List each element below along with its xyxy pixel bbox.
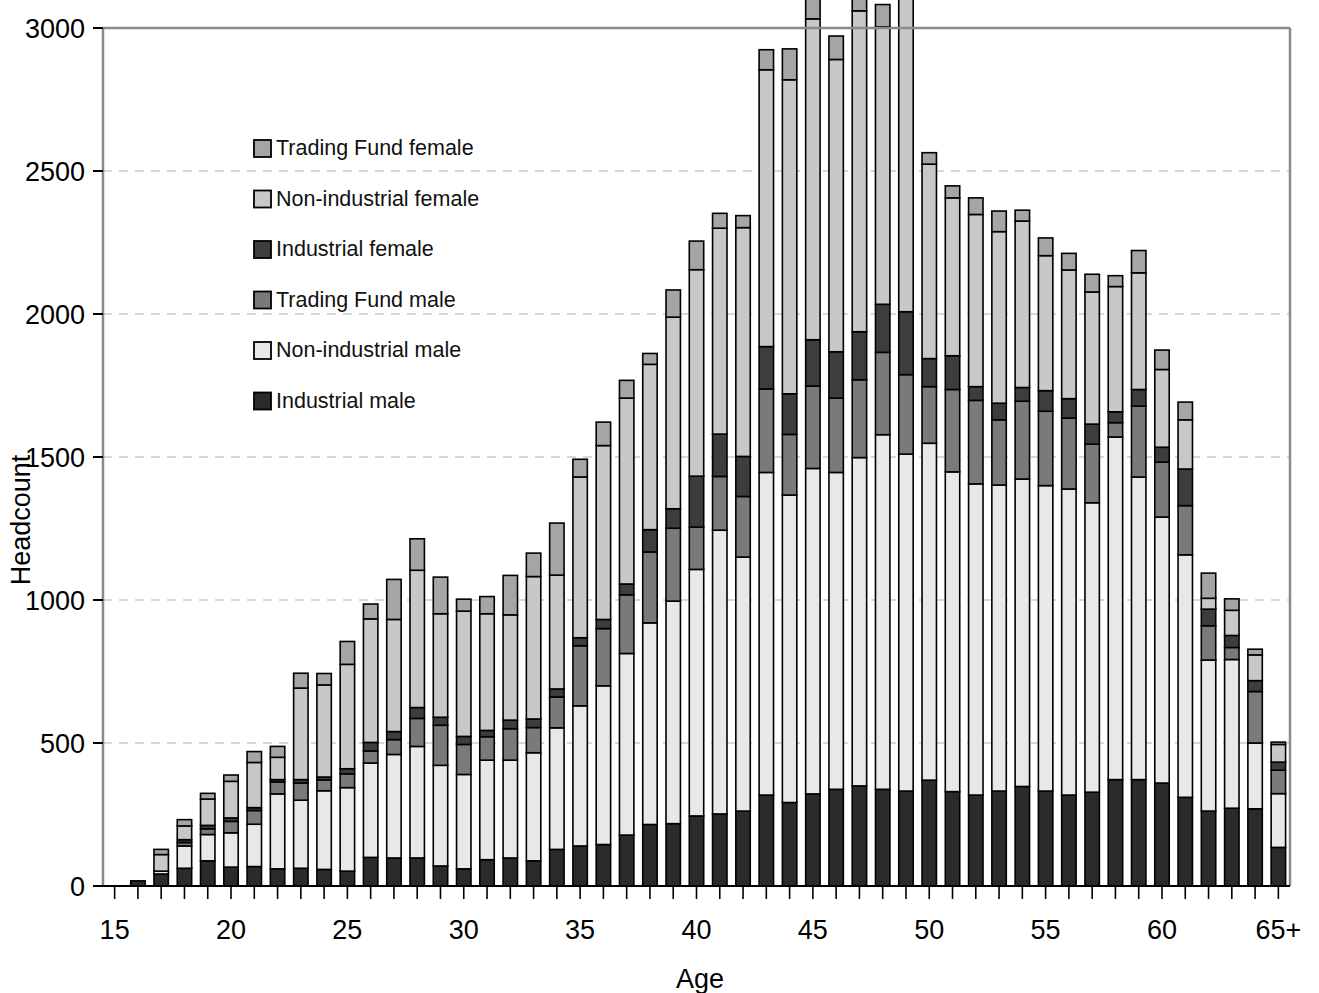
bar-segment [1155,462,1169,517]
bar-segment [643,530,657,552]
bar-segment [922,780,936,886]
bar-segment [713,213,727,228]
x-tick-label: 55 [1031,915,1061,945]
legend-label: Trading Fund male [276,288,456,312]
bar-segment [340,871,354,886]
bar-segment [1038,411,1052,485]
bar-stack [596,422,610,886]
bar-segment [526,719,540,728]
bar-segment [713,476,727,530]
bar-segment [643,353,657,364]
y-tick-label: 3000 [25,14,85,44]
bar-segment [1225,647,1239,659]
bar-stack [1248,649,1262,886]
bar-segment [317,869,331,886]
bar-segment [1178,506,1192,555]
bar-segment [550,523,564,575]
bar-stack [945,186,959,886]
bar-segment [363,604,377,619]
bar-segment [666,824,680,886]
x-tick-label: 25 [332,915,362,945]
bar-segment [410,570,424,707]
bar-segment [759,70,773,347]
bar-segment [294,688,308,780]
bar-stack [643,353,657,886]
bar-stack [1038,238,1052,886]
bar-segment [713,434,727,476]
bar-segment [1015,401,1029,479]
bar-segment [945,356,959,390]
bar-segment [1085,292,1099,424]
bar-segment [1062,489,1076,795]
bar-segment [992,403,1006,420]
bar-segment [1085,274,1099,292]
bar-segment [433,717,447,725]
bar-segment [945,390,959,472]
bar-segment [294,673,308,688]
bar-segment [969,400,983,484]
bar-segment [317,791,331,870]
bar-segment [1062,253,1076,270]
bar-segment [806,468,820,793]
bar-segment [201,861,215,886]
bar-segment [526,861,540,886]
bar-stack [875,5,889,886]
bar-segment [666,509,680,528]
bar-segment [1038,791,1052,886]
bar-segment [480,730,494,736]
bar-segment [363,742,377,751]
bar-segment [1132,780,1146,886]
bar-segment [387,754,401,858]
bar-segment [1015,479,1029,786]
bar-stack [666,290,680,886]
bar-segment [852,786,866,886]
bar-segment [177,846,191,868]
bar-stack [969,198,983,886]
bar-segment [899,312,913,375]
bar-segment [410,858,424,886]
bar-segment [596,686,610,845]
bar-segment [969,484,983,795]
bar-segment [969,214,983,386]
bar-segment [1155,517,1169,783]
bar-segment [1108,780,1122,886]
bar-segment [247,824,261,866]
x-tick-label: 35 [565,915,595,945]
legend-label: Industrial female [276,237,434,261]
bar-segment [1108,423,1122,437]
legend-label: Industrial male [276,389,416,413]
x-tick-label: 20 [216,915,246,945]
bar-segment [1015,221,1029,387]
bar-segment [713,530,727,814]
legend-item: Non-industrial female [254,187,479,211]
stacked-bar-chart: 050010001500200025003000 152025303540455… [0,0,1319,993]
bar-segment [922,443,936,780]
bar-segment [829,472,843,789]
bar-segment [713,228,727,434]
bar-segment [759,795,773,886]
bar-stack [1062,253,1076,886]
bar-segment [1201,573,1215,598]
bar-segment [1271,794,1285,848]
bar-segment [643,623,657,825]
bar-segment [1132,477,1146,780]
bar-segment [852,380,866,458]
x-tick-label: 50 [914,915,944,945]
bar-segment [1248,743,1262,809]
bar-segment [619,835,633,886]
bar-segment [666,290,680,317]
bar-segment [875,435,889,790]
bar-segment [294,800,308,868]
y-tick-labels-group: 050010001500200025003000 [25,14,103,902]
bar-segment [1225,610,1239,635]
bar-segment [573,459,587,477]
bar-segment [480,614,494,731]
bar-segment [829,59,843,351]
legend-item: Trading Fund female [254,136,474,160]
bar-stack [526,553,540,886]
bar-segment [1132,251,1146,273]
bar-segment [480,760,494,860]
bar-stack [340,641,354,886]
bar-segment [806,386,820,468]
bar-segment [201,835,215,861]
